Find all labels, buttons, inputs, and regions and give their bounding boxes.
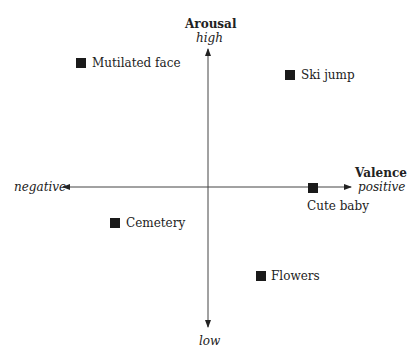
marker-cemetery [110, 218, 120, 228]
marker-flowers [256, 271, 266, 281]
label-ski-jump: Ski jump [301, 68, 355, 82]
label-cemetery: Cemetery [126, 216, 185, 230]
marker-mutilated-face [76, 58, 86, 68]
marker-ski-jump [285, 70, 295, 80]
marker-cute-baby [308, 183, 318, 193]
valence-axis-title: Valence [355, 166, 407, 180]
valence-negative-label: negative [14, 180, 66, 194]
label-flowers: Flowers [271, 269, 320, 283]
label-mutilated-face: Mutilated face [92, 56, 181, 70]
arousal-low-label: low [199, 334, 220, 348]
label-cute-baby: Cute baby [307, 199, 369, 213]
valence-positive-label: positive [358, 180, 405, 194]
arousal-high-label: high [196, 31, 223, 45]
arousal-axis-title: Arousal [185, 17, 236, 31]
